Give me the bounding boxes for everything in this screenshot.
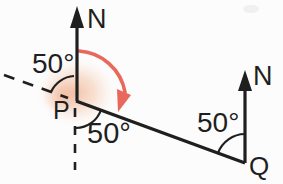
angle-label-at-q: 50° xyxy=(197,109,239,137)
angle-label-s-at-p: 50° xyxy=(87,119,131,148)
north-label-p: N xyxy=(87,6,107,33)
bearings-diagram: N 50° P 50° 50° N Q xyxy=(0,0,283,184)
point-label-p: P xyxy=(53,98,70,123)
diagram-canvas xyxy=(0,0,283,184)
point-label-q: Q xyxy=(249,153,269,179)
angle-label-nw-at-p: 50° xyxy=(32,50,74,78)
rotation-arrow-head xyxy=(117,89,131,112)
north-arrowhead-q-icon xyxy=(238,70,252,91)
north-label-q: N xyxy=(253,63,273,90)
north-arrowhead-p-icon xyxy=(70,6,84,28)
scan-smudge xyxy=(243,5,259,13)
